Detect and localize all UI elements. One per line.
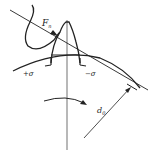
force-line [10, 10, 148, 90]
force-label: Fn [41, 18, 51, 29]
diameter-dimension-line [84, 88, 130, 138]
diameter-label: d0 [97, 106, 106, 116]
rotation-arrow-icon [80, 100, 87, 105]
stress-right-label: −σ [85, 70, 96, 78]
stress-left-label: +σ [23, 70, 34, 78]
gear-diagram: Fn +σ −σ d0 [0, 0, 156, 160]
tooth-root-right [80, 58, 86, 66]
rotation-arc [44, 98, 84, 103]
